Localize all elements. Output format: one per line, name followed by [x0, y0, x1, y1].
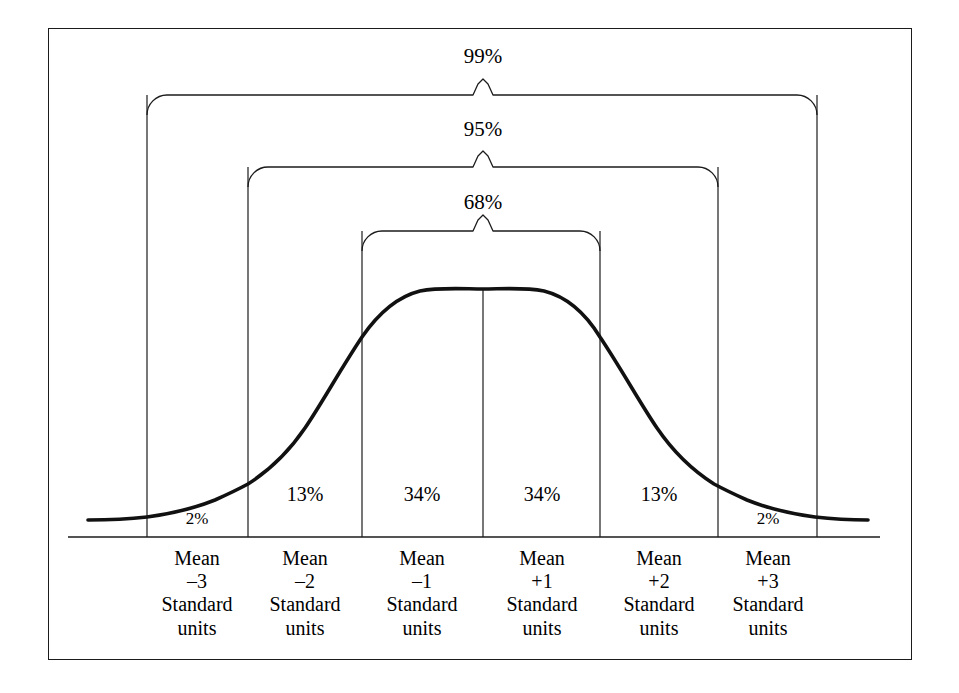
axis-label-line-standard: Standard	[269, 593, 340, 616]
axis-label-line-offset: –3	[161, 570, 232, 593]
area-label-2-percent-right: 2%	[757, 509, 780, 529]
axis-label-line-units: units	[386, 617, 457, 640]
axis-label-line-mean: Mean	[269, 547, 340, 570]
axis-label-line-offset: –2	[269, 570, 340, 593]
axis-label-line-standard: Standard	[623, 593, 694, 616]
axis-label-plus-1-sigma: Mean +1 Standard units	[506, 547, 577, 640]
axis-label-line-units: units	[269, 617, 340, 640]
axis-label-line-units: units	[506, 617, 577, 640]
axis-label-line-offset: +1	[506, 570, 577, 593]
axis-label-line-standard: Standard	[732, 593, 803, 616]
area-label-34-percent-right: 34%	[524, 483, 561, 506]
axis-label-line-units: units	[732, 617, 803, 640]
brace-label-99-percent: 99%	[464, 44, 503, 68]
axis-label-line-mean: Mean	[732, 547, 803, 570]
axis-label-line-mean: Mean	[386, 547, 457, 570]
axis-label-minus-3-sigma: Mean –3 Standard units	[161, 547, 232, 640]
area-label-2-percent-left: 2%	[186, 509, 209, 529]
axis-label-line-standard: Standard	[386, 593, 457, 616]
axis-label-minus-1-sigma: Mean –1 Standard units	[386, 547, 457, 640]
axis-label-line-standard: Standard	[161, 593, 232, 616]
axis-label-line-units: units	[623, 617, 694, 640]
axis-label-line-offset: –1	[386, 570, 457, 593]
figure-root: 99% 95% 68% 2% 13% 34% 34% 13% 2% Mean –…	[0, 0, 959, 693]
axis-label-line-units: units	[161, 617, 232, 640]
axis-label-line-standard: Standard	[506, 593, 577, 616]
brace-label-68-percent: 68%	[464, 190, 503, 214]
brace-label-95-percent: 95%	[464, 117, 503, 141]
axis-label-line-mean: Mean	[623, 547, 694, 570]
area-label-34-percent-left: 34%	[404, 483, 441, 506]
axis-label-line-mean: Mean	[506, 547, 577, 570]
axis-label-minus-2-sigma: Mean –2 Standard units	[269, 547, 340, 640]
axis-label-plus-3-sigma: Mean +3 Standard units	[732, 547, 803, 640]
axis-label-line-offset: +3	[732, 570, 803, 593]
area-label-13-percent-left: 13%	[287, 483, 324, 506]
area-label-13-percent-right: 13%	[641, 483, 678, 506]
axis-label-plus-2-sigma: Mean +2 Standard units	[623, 547, 694, 640]
axis-label-line-mean: Mean	[161, 547, 232, 570]
axis-label-line-offset: +2	[623, 570, 694, 593]
